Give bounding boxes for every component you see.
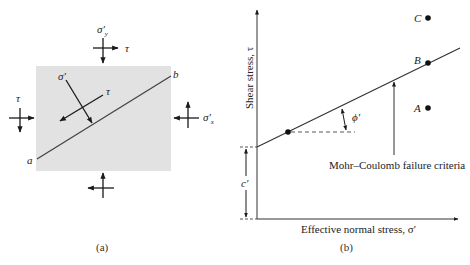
y-axis-label: Shear stress, τ (243, 46, 255, 109)
panel-b: Shear stress, τ Effective normal stress,… (240, 10, 465, 254)
point-a (425, 105, 431, 111)
top-stress-cross (93, 38, 118, 63)
left-stress-cross (9, 108, 34, 132)
inner-normal-stress-label: σ′ (58, 70, 66, 82)
point-a-label: A (413, 102, 421, 114)
sigma-y-label: σ′y (97, 23, 109, 38)
caption-b: (b) (340, 241, 353, 254)
plane-label-a: a (27, 154, 33, 166)
right-stress-cross (174, 102, 199, 128)
x-axis-label: Effective normal stress, σ′ (301, 223, 416, 235)
point-b (425, 60, 431, 66)
friction-angle-label: ϕ′ (352, 111, 361, 123)
cohesion-label: c′ (241, 177, 249, 189)
point-b-label: B (414, 54, 421, 66)
diagram-canvas: b a σ′ τ σ′y τ τ σ′x (a) (0, 0, 470, 265)
sigma-x-label: σ′x (203, 111, 215, 126)
criteria-label: Mohr–Coulomb failure criteria (329, 159, 465, 171)
plane-label-b: b (173, 68, 179, 80)
panel-a: b a σ′ τ σ′y τ τ σ′x (a) (9, 23, 215, 254)
point-c-label: C (414, 12, 422, 24)
bottom-stress-cross (88, 173, 114, 198)
envelope-point (285, 129, 291, 135)
point-c (425, 15, 431, 21)
caption-a: (a) (96, 241, 109, 254)
friction-angle-arrow (342, 109, 346, 130)
left-shear-label: τ (16, 92, 21, 104)
top-shear-label: τ (125, 42, 130, 54)
